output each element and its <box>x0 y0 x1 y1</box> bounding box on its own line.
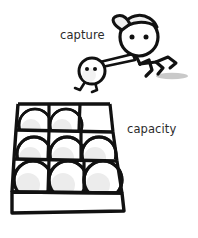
captured-eye-left <box>85 67 89 71</box>
crate-row-divider-0 <box>16 130 113 132</box>
label-capacity: capacity <box>127 122 176 136</box>
crate-divider-mid-1 <box>48 131 49 159</box>
captured-eye-right <box>93 67 97 71</box>
scene-drawing: capture capacity <box>0 0 198 238</box>
crate-divider-front-1 <box>48 160 49 192</box>
label-capture: capture <box>60 28 105 42</box>
crate-front-top-edge <box>12 192 122 193</box>
runner-eye-left <box>130 35 135 40</box>
runner-eye-right <box>144 35 149 40</box>
crate-divider-back-2 <box>79 104 80 130</box>
runner-shadow <box>156 73 188 79</box>
illustration-canvas: capture capacity <box>0 0 198 238</box>
crate-front-panel <box>12 192 124 213</box>
